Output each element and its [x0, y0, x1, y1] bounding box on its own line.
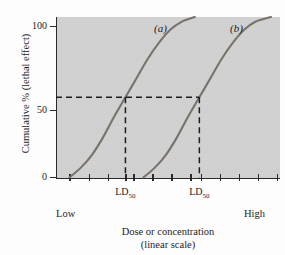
dose-response-figure: 100 50 0 (a) (b) LD50 LD50 Cumulative % … [0, 0, 285, 255]
ld50-a-text: LD [115, 186, 128, 197]
x-axis-low-label: Low [56, 208, 75, 219]
x-tick-mark-12 [277, 174, 278, 181]
ld50-a-subscript: 50 [129, 192, 136, 200]
y-tick-mark-100 [50, 26, 57, 27]
ld50-a-label: LD50 [102, 186, 148, 200]
x-tick-mark-11 [258, 174, 259, 181]
x-axis-title-line1: Dose or concentration [122, 226, 215, 237]
ld50-b-label: LD50 [176, 186, 222, 200]
y-tick-mark-50 [50, 110, 57, 111]
x-tick-mark-2 [108, 174, 109, 181]
x-tick-mark-6 [171, 174, 172, 181]
x-tick-mark-5 [152, 174, 153, 181]
plot-area [56, 17, 280, 178]
y-axis-title: Cumulative % (lethal effect) [20, 6, 31, 182]
y-tick-mark-0 [50, 177, 57, 178]
x-tick-mark-8 [201, 174, 202, 181]
x-tick-mark-3 [125, 174, 126, 181]
curve-b-label: (b) [230, 22, 243, 34]
x-tick-mark-10 [239, 174, 240, 181]
x-tick-mark-4 [133, 174, 134, 181]
x-axis-title-line2: (linear scale) [56, 238, 280, 251]
x-tick-mark-1 [89, 174, 90, 181]
x-tick-mark-0 [69, 174, 70, 181]
ld50-b-subscript: 50 [203, 192, 210, 200]
x-tick-mark-9 [220, 174, 221, 181]
curve-a-label: (a) [154, 22, 167, 34]
ld50-b-text: LD [189, 186, 202, 197]
x-axis-high-label: High [244, 208, 265, 219]
x-axis-title: Dose or concentration (linear scale) [56, 225, 280, 251]
y-axis-line [56, 17, 57, 178]
x-tick-mark-7 [190, 174, 191, 181]
